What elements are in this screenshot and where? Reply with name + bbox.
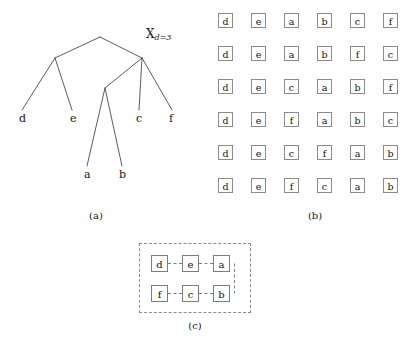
grid-row: d e f a b c — [213, 112, 416, 129]
grid-cell: e — [251, 112, 266, 127]
caption-panel-b: (b) — [299, 210, 331, 221]
panel-c-box: d — [151, 255, 168, 272]
panel-c-box: c — [182, 285, 199, 302]
grid-cell: f — [284, 112, 299, 127]
tree-leaf-e: e — [70, 113, 77, 124]
grid-cell: b — [350, 79, 365, 94]
grid-cell: a — [317, 79, 332, 94]
grid-cell: a — [317, 112, 332, 127]
grid-cell: d — [218, 178, 233, 193]
panel-c-group: d e a f c b — [139, 243, 251, 313]
panel-c-box: f — [151, 285, 168, 302]
grid-cell: e — [251, 79, 266, 94]
grid-cell: f — [350, 46, 365, 61]
panel-c-connectors — [139, 243, 251, 313]
grid-cell: a — [284, 46, 299, 61]
panel-c-box: b — [213, 285, 230, 302]
tree-leaf-f: f — [169, 113, 173, 124]
grid-cell: c — [284, 145, 299, 160]
grid-cell: f — [284, 178, 299, 193]
grid-cell: b — [383, 178, 398, 193]
panel-a-tree: Xd=3 d e c f a b — [0, 0, 210, 230]
tree-edges — [0, 0, 210, 200]
grid-cell: e — [251, 46, 266, 61]
grid-cell: d — [218, 13, 233, 28]
grid-cell: b — [383, 145, 398, 160]
tree-leaf-a: a — [84, 169, 91, 180]
grid-cell: c — [350, 13, 365, 28]
grid-cell: f — [317, 145, 332, 160]
grid-cell: c — [383, 112, 398, 127]
grid-cell: c — [284, 79, 299, 94]
grid-row: d e a b f c — [213, 46, 416, 63]
grid-row: d e c a b f — [213, 79, 416, 96]
grid-cell: a — [284, 13, 299, 28]
grid-cell: d — [218, 79, 233, 94]
panel-c-box: a — [213, 255, 230, 272]
panel-c-box: e — [182, 255, 199, 272]
caption-panel-a: (a) — [80, 210, 112, 221]
tree-leaf-b: b — [119, 169, 126, 180]
grid-cell: d — [218, 112, 233, 127]
tree-node-x-label: Xd=3 — [146, 28, 171, 42]
grid-cell: e — [251, 178, 266, 193]
grid-row: d e a b c f — [213, 13, 416, 30]
grid-cell: c — [317, 178, 332, 193]
caption-panel-c: (c) — [179, 320, 211, 331]
figure-root: Xd=3 d e c f a b (a) d e a b c f d e a b… — [0, 0, 416, 351]
panel-b-permutation-grid: d e a b c f d e a b f c d e c a b f d e — [213, 6, 416, 211]
grid-cell: b — [317, 46, 332, 61]
grid-cell: b — [317, 13, 332, 28]
grid-cell: b — [350, 112, 365, 127]
grid-cell: a — [350, 178, 365, 193]
grid-cell: d — [218, 145, 233, 160]
grid-cell: a — [350, 145, 365, 160]
tree-leaf-c: c — [136, 113, 142, 124]
grid-cell: e — [251, 145, 266, 160]
tree-node-x-symbol: X — [146, 27, 155, 41]
grid-cell: d — [218, 46, 233, 61]
grid-cell: f — [383, 13, 398, 28]
tree-node-x-subscript: d=3 — [155, 33, 172, 42]
grid-row: d e f c a b — [213, 178, 416, 195]
grid-row: d e c f a b — [213, 145, 416, 162]
tree-leaf-d: d — [19, 113, 26, 124]
grid-cell: e — [251, 13, 266, 28]
grid-cell: f — [383, 79, 398, 94]
grid-cell: c — [383, 46, 398, 61]
